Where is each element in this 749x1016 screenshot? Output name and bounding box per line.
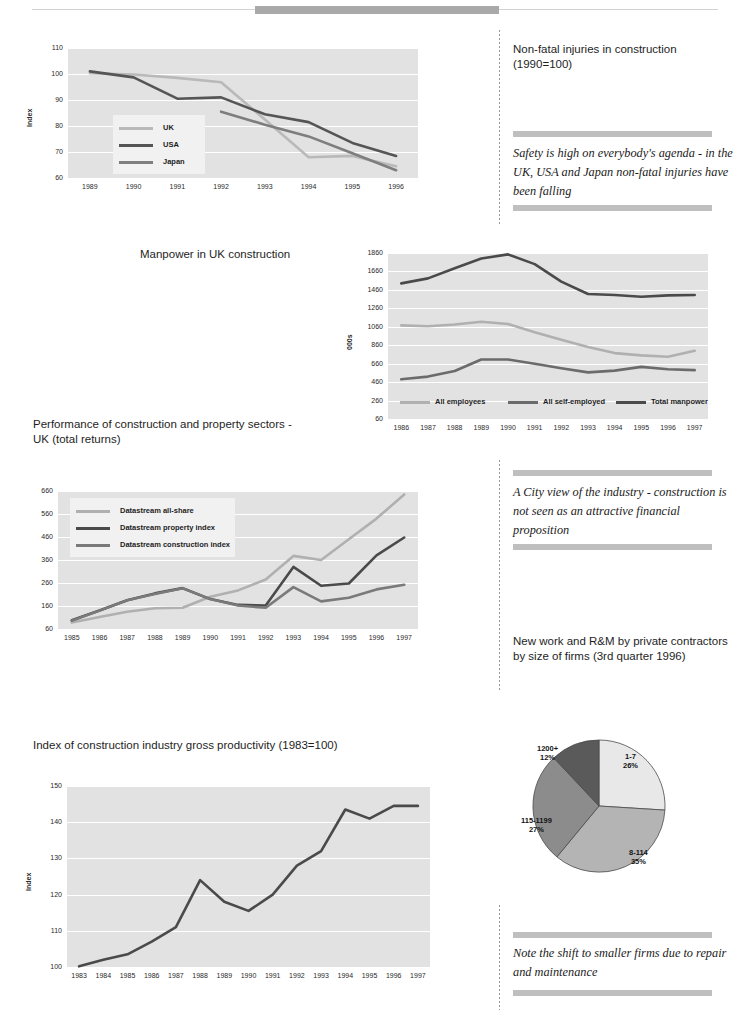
- pie-label-value: 12%: [537, 753, 558, 762]
- pie-label-name: 8-114: [629, 848, 648, 857]
- pie-label-name: 115-1199: [521, 816, 552, 825]
- report-page: Non-fatal injuries in construction (1990…: [0, 0, 749, 1016]
- pie-label-value: 27%: [521, 825, 552, 834]
- pie-label-value: 26%: [623, 761, 638, 770]
- pie-label-name: 1-7: [623, 752, 638, 761]
- pie-label: 8-11435%: [629, 848, 648, 866]
- pie-label: 1200+12%: [537, 744, 558, 762]
- pie-label-name: 1200+: [537, 744, 558, 753]
- pie-label: 115-119927%: [521, 816, 552, 834]
- pie-label-value: 35%: [629, 857, 648, 866]
- pie-label: 1-726%: [623, 752, 638, 770]
- pie-slice-1-7: [599, 740, 665, 810]
